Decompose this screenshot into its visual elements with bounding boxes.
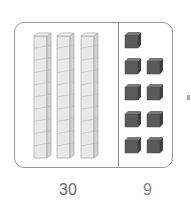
unit-cube (125, 32, 141, 48)
unit-cube (125, 137, 141, 153)
marker (187, 95, 190, 100)
unit-cube (147, 111, 163, 127)
tens-value-label: 30 (59, 181, 77, 199)
tens-rod-1 (34, 33, 51, 158)
unit-cube (125, 111, 141, 127)
ones-value-label: 9 (143, 181, 152, 199)
tens-rods (0, 0, 191, 218)
unit-cube (147, 84, 163, 100)
unit-cube (125, 58, 141, 74)
unit-cube (147, 137, 163, 153)
tens-rod-2 (57, 33, 74, 158)
unit-cube (147, 58, 163, 74)
unit-cube (125, 84, 141, 100)
tens-rod-3 (81, 33, 98, 158)
